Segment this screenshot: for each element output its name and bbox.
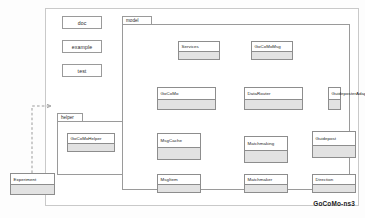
box-example[interactable]: example — [62, 40, 102, 53]
class-msgitem[interactable]: MsgItem — [157, 174, 201, 193]
package-model-label: model — [126, 18, 139, 23]
class-gocomo-body — [158, 100, 215, 109]
class-msgitem-body — [158, 185, 200, 192]
box-doc-label: doc — [78, 20, 87, 26]
class-experiment[interactable]: Experiment — [10, 173, 55, 195]
class-matchmaking[interactable]: Matchmaking — [244, 136, 288, 163]
class-matchmaking-body — [245, 151, 287, 162]
class-gocomomsg[interactable]: GoCoMoMsg — [251, 41, 293, 60]
class-gocomo-name: GoCoMo — [158, 88, 215, 100]
class-guideposteradapter-body — [329, 100, 340, 109]
box-example-label: example — [72, 44, 92, 50]
class-datarouter[interactable]: DataRouter — [244, 87, 303, 110]
package-helper-tab[interactable]: helper — [57, 113, 83, 121]
diagram-title: GoCoMo-ns3 — [313, 200, 355, 207]
class-msgcache-body — [158, 148, 200, 159]
class-direction-name: Direction — [313, 175, 355, 185]
class-gocomomsg-body — [252, 52, 292, 59]
class-experiment-body — [11, 185, 54, 194]
class-gocomomsg-name: GoCoMoMsg — [252, 42, 292, 52]
class-services-body — [179, 52, 219, 59]
class-msgcache-name: MsgCache — [158, 134, 200, 148]
class-services[interactable]: Services — [178, 41, 220, 60]
diagram-canvas: doc example test helper GoCoMoHelper mod… — [0, 0, 365, 218]
class-guidepost-name: Guidepost — [313, 132, 355, 146]
class-services-name: Services — [179, 42, 219, 52]
class-gocomohelper-name: GoCoMoHelper — [68, 134, 114, 144]
class-guideposteradapter[interactable]: GuideposterAdapter — [328, 87, 341, 110]
class-guidepost[interactable]: Guidepost — [312, 131, 356, 158]
class-guidepost-body — [313, 146, 355, 157]
box-doc[interactable]: doc — [62, 16, 102, 29]
class-matchmaker-body — [245, 185, 287, 192]
class-msgcache[interactable]: MsgCache — [157, 133, 201, 160]
box-test-label: test — [78, 68, 87, 74]
class-gocomohelper-body — [68, 144, 114, 151]
class-datarouter-name: DataRouter — [245, 88, 302, 100]
class-matchmaking-name: Matchmaking — [245, 137, 287, 151]
class-gocomo[interactable]: GoCoMo — [157, 87, 216, 110]
class-experiment-name: Experiment — [11, 174, 54, 185]
class-direction-body — [313, 185, 355, 192]
class-matchmaker[interactable]: Matchmaker — [244, 174, 288, 193]
class-direction[interactable]: Direction — [312, 174, 356, 193]
package-helper-label: helper — [61, 115, 74, 120]
class-datarouter-body — [245, 100, 302, 109]
class-msgitem-name: MsgItem — [158, 175, 200, 185]
package-model-tab[interactable]: model — [122, 16, 152, 24]
box-test[interactable]: test — [62, 64, 102, 77]
class-matchmaker-name: Matchmaker — [245, 175, 287, 185]
class-guideposteradapter-name: GuideposterAdapter — [329, 88, 340, 100]
class-gocomohelper[interactable]: GoCoMoHelper — [67, 133, 115, 152]
